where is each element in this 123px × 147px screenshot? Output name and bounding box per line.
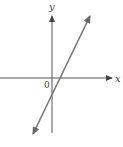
origin-label: 0 [44,80,50,90]
coordinate-plane: y x 0 [0,0,123,147]
y-axis-label: y [48,1,55,12]
plotted-line [33,16,90,134]
x-axis-label: x [115,73,121,84]
